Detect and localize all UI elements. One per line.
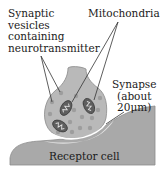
vesicles-label-line: neurotransmitter	[8, 43, 100, 55]
synapse-label-line: 20μm)	[112, 102, 156, 114]
synapse-diagram: Synaptic vesicles containing neurotransm…	[0, 0, 163, 190]
vesicles-label: Synaptic vesicles containing neurotransm…	[8, 8, 100, 54]
vesicles-label-line: Synaptic	[8, 8, 100, 20]
vesicles-label-line: containing	[8, 31, 100, 43]
receptor-cell-label: Receptor cell	[49, 151, 120, 163]
mitochondria-label: Mitochondria	[88, 8, 160, 20]
synapse-label-line: Synapse	[112, 79, 156, 91]
synapse-label: Synapse (about 20μm)	[112, 79, 156, 114]
